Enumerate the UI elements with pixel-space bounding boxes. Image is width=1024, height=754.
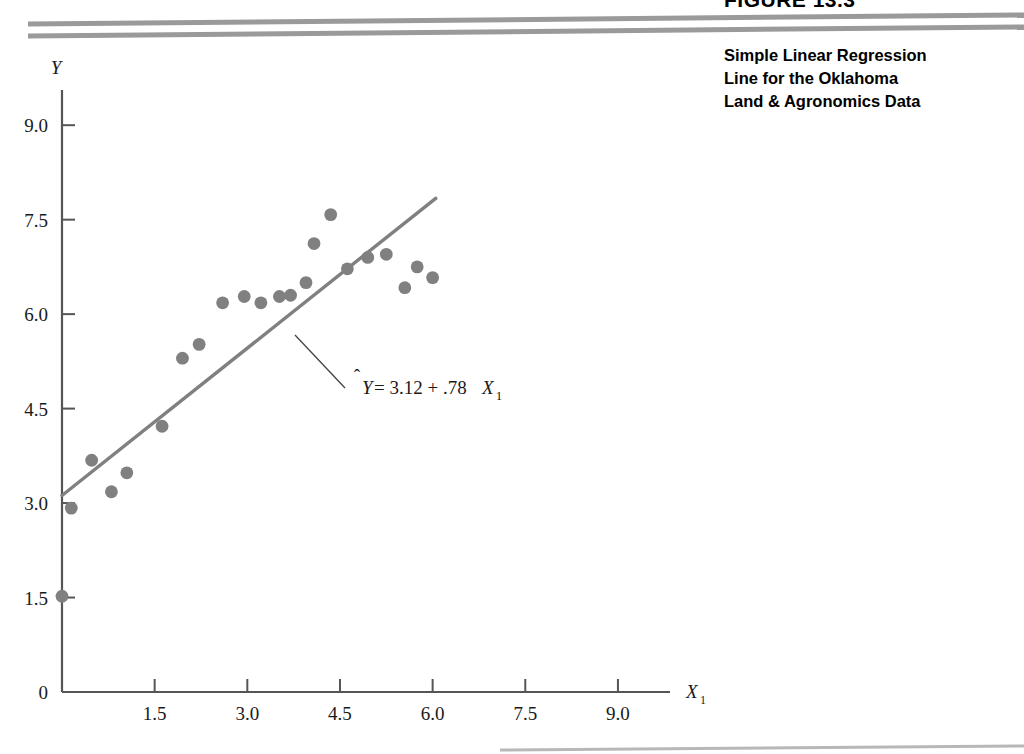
y-axis-title: Y <box>51 57 64 78</box>
caption-line-2: Line for the Oklahoma <box>724 67 1014 90</box>
equation-hat-accent: ̂ <box>354 369 360 372</box>
data-point <box>300 276 313 289</box>
regression-equation-annotation: Y ̂ = 3.12 + .78 X 1 <box>354 369 502 403</box>
y-axis-ticks: 01.53.04.56.07.59.0 <box>24 115 75 703</box>
scatter-chart: Y X 1 01.53.04.56.07.59.0 1.53.04.56.07.… <box>0 50 724 750</box>
y-tick-label: 0 <box>39 682 49 703</box>
y-tick-label: 9.0 <box>24 115 48 136</box>
data-point <box>255 296 268 309</box>
data-point <box>216 296 229 309</box>
x-tick-label: 4.5 <box>328 703 352 724</box>
caption-line-1: Simple Linear Regression <box>724 44 1014 67</box>
data-point <box>324 208 337 221</box>
y-tick-label: 3.0 <box>24 493 48 514</box>
figure-number-label: FIGURE 13.3 <box>724 0 856 12</box>
y-tick-label: 7.5 <box>24 210 48 231</box>
data-point <box>411 260 424 273</box>
data-point <box>361 251 374 264</box>
y-tick-label: 1.5 <box>24 588 48 609</box>
y-tick-label: 6.0 <box>24 304 48 325</box>
x-tick-label: 3.0 <box>235 703 259 724</box>
data-point <box>120 466 133 479</box>
x-tick-label: 7.5 <box>513 703 537 724</box>
data-point <box>65 502 78 515</box>
equation-body: = 3.12 + .78 <box>374 377 467 398</box>
svg-text:1: 1 <box>700 693 706 707</box>
data-point <box>193 338 206 351</box>
x-tick-label: 9.0 <box>606 703 630 724</box>
data-point <box>380 248 393 261</box>
chart-svg: Y X 1 01.53.04.56.07.59.0 1.53.04.56.07.… <box>0 50 724 750</box>
data-point-group <box>56 208 439 602</box>
header-decorative-rules <box>0 0 1024 46</box>
data-point <box>56 590 69 603</box>
equation-xvar: X <box>481 377 495 398</box>
data-point <box>85 454 98 467</box>
data-point <box>398 281 411 294</box>
data-point <box>156 420 169 433</box>
y-tick-label: 4.5 <box>24 399 48 420</box>
data-point <box>284 289 297 302</box>
x-tick-label: 1.5 <box>143 703 167 724</box>
x-axis-ticks: 1.53.04.56.07.59.0 <box>143 679 630 724</box>
data-point <box>238 290 251 303</box>
data-point <box>176 352 189 365</box>
data-point <box>426 271 439 284</box>
data-point <box>341 262 354 275</box>
caption-line-3: Land & Agronomics Data <box>724 90 1014 113</box>
svg-text:X: X <box>685 681 699 702</box>
regression-line <box>62 198 436 495</box>
figure-caption: Simple Linear Regression Line for the Ok… <box>724 44 1014 113</box>
equation-leader-line <box>295 335 345 388</box>
x-tick-label: 6.0 <box>421 703 445 724</box>
data-point <box>105 485 118 498</box>
x-axis-title: X 1 <box>685 681 706 707</box>
data-point <box>273 290 286 303</box>
data-point <box>308 237 321 250</box>
equation-xsub: 1 <box>496 389 502 403</box>
